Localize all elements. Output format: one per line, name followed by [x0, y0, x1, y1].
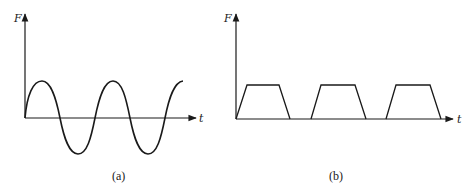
y-axis-label-a: F: [13, 12, 22, 25]
x-axis-label-a: t: [199, 112, 204, 125]
trapezoid-pulse-2: [311, 85, 366, 119]
trapezoid-pulse-3: [386, 85, 441, 119]
trapezoid-pulse-1: [236, 85, 290, 119]
figure-canvas: F t (a) F t (b): [0, 0, 474, 190]
panel-a: F t (a): [13, 12, 204, 183]
panel-b: F t (b): [223, 12, 462, 183]
x-axis-label-b: t: [457, 113, 462, 126]
caption-b: (b): [329, 169, 343, 183]
y-axis-label-b: F: [223, 12, 232, 25]
caption-a: (a): [112, 169, 125, 183]
